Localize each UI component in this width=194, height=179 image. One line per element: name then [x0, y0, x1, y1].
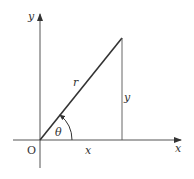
x-axis-label: x	[175, 142, 182, 155]
origin-label: O	[27, 144, 36, 157]
radius-line	[40, 38, 122, 140]
angle-arc	[60, 115, 72, 140]
y-axis-label: y	[27, 10, 35, 23]
radius-label: r	[73, 76, 79, 89]
angle-label: θ	[55, 126, 62, 139]
horizontal-leg-label: x	[85, 144, 92, 157]
polar-coordinates-diagram: y x O r θ x y	[0, 0, 194, 179]
vertical-leg-label: y	[123, 91, 131, 104]
